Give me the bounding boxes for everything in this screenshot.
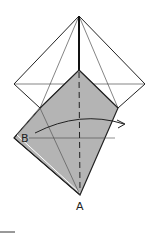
- label-b: B: [21, 132, 29, 145]
- label-a: A: [76, 200, 84, 213]
- origami-diagram: B A: [0, 0, 151, 233]
